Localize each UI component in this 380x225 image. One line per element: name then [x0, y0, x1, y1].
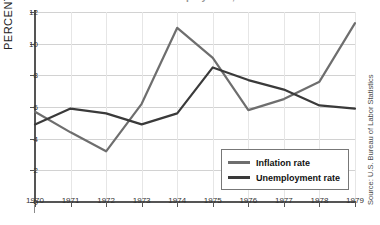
- legend-label-unemployment: Unemployment rate: [256, 173, 340, 183]
- legend-swatch-inflation: [228, 161, 250, 164]
- chart-title-clipped: Inflation and Unemployment, 1970-1979: [0, 0, 380, 2]
- y-tick-label: 12: [18, 8, 38, 17]
- series-line-unemployment-rate: [35, 67, 355, 124]
- series-line-inflation-rate: [35, 23, 355, 151]
- x-tick-label: 1976: [228, 196, 268, 205]
- chart-title-text: Inflation and Unemployment, 1970-1979: [0, 0, 380, 2]
- chart-figure: Inflation and Unemployment, 1970-1979 PE…: [0, 0, 380, 225]
- legend-item-inflation: Inflation rate: [228, 155, 348, 170]
- x-tick-label: 1970: [15, 196, 55, 205]
- x-tick-label: 1977: [264, 196, 304, 205]
- y-axis-title: PERCENT: [2, 0, 14, 50]
- legend-item-unemployment: Unemployment rate: [228, 170, 348, 185]
- y-tick-label: 4: [18, 134, 38, 143]
- x-tick-label: 1971: [51, 196, 91, 205]
- x-tick-label: 1973: [122, 196, 162, 205]
- legend-swatch-unemployment: [228, 176, 250, 179]
- y-tick-label: 2: [18, 166, 38, 175]
- x-tick-label: 1972: [86, 196, 126, 205]
- chart-legend: Inflation rate Unemployment rate: [221, 149, 349, 190]
- y-tick-label: 10: [18, 39, 38, 48]
- legend-label-inflation: Inflation rate: [256, 158, 310, 168]
- source-note: Source: U.S. Bureau of Labor Statistics: [366, 75, 375, 205]
- x-tick-label: 1978: [299, 196, 339, 205]
- x-tick-label: 1974: [157, 196, 197, 205]
- gridline-vertical: [355, 12, 356, 202]
- y-tick-label: 6: [18, 103, 38, 112]
- x-tick-label: 1975: [193, 196, 233, 205]
- x-tick-label: 1979: [335, 196, 375, 205]
- y-tick-label: 8: [18, 71, 38, 80]
